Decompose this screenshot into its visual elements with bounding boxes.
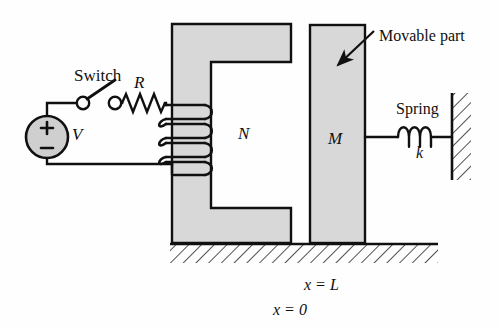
label-switch: Switch <box>74 67 121 84</box>
label-mass: M <box>328 130 342 147</box>
diagram-canvas: Switch R V N M Movable part Spring k x =… <box>0 0 500 329</box>
ground-hatched-surface <box>170 244 438 263</box>
label-position-L: x = L <box>304 277 339 293</box>
label-voltage: V <box>72 126 82 143</box>
resistor-zigzag <box>122 94 165 112</box>
c-shaped-magnetic-core <box>172 24 291 243</box>
label-resistance: R <box>134 74 144 91</box>
label-spring: Spring <box>396 101 439 117</box>
dc-voltage-source <box>26 116 68 158</box>
actuator-schematic <box>0 0 500 329</box>
label-turns: N <box>238 125 249 142</box>
fixed-wall-hatched <box>452 93 471 180</box>
label-spring-constant: k <box>416 145 423 161</box>
helical-spring-3-coils <box>365 127 452 147</box>
label-position-0: x = 0 <box>273 302 307 318</box>
label-movable-part: Movable part <box>379 28 465 44</box>
